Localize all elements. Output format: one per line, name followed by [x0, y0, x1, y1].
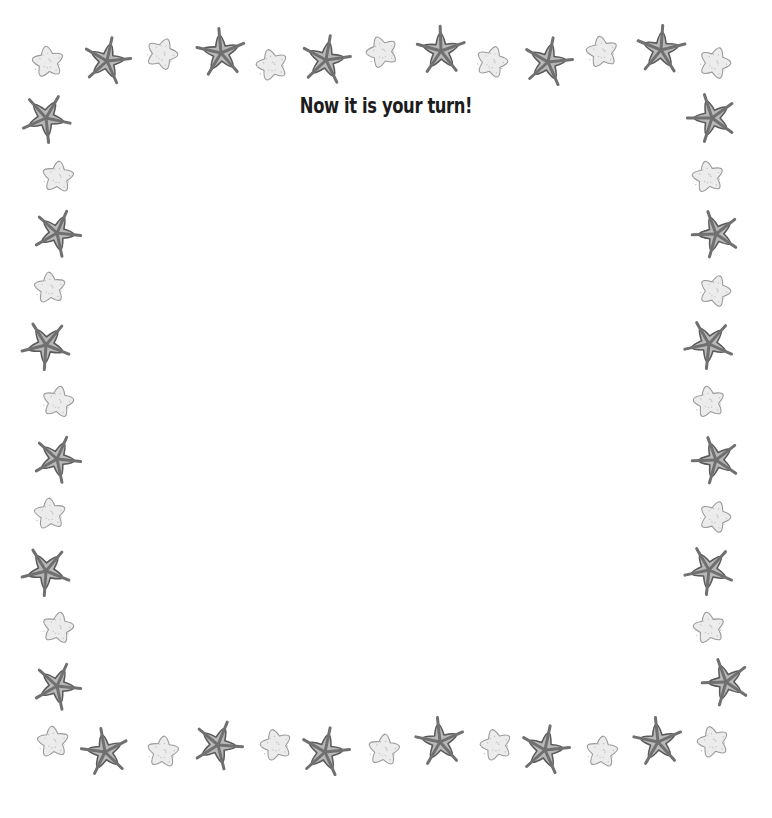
starfish-icon — [31, 601, 85, 655]
worksheet-page: Now it is your turn! — [0, 0, 772, 818]
starfish-icon — [293, 720, 357, 784]
starfish-icon — [682, 601, 736, 655]
starfish-icon — [688, 490, 742, 544]
starfish-icon — [23, 487, 77, 541]
starfish-icon — [189, 21, 253, 85]
starfish-icon — [575, 25, 629, 79]
starfish-icon — [23, 261, 77, 315]
starfish-icon — [677, 538, 741, 602]
starfish-icon — [677, 312, 741, 376]
starfish-icon — [26, 655, 88, 717]
starfish-icon — [26, 715, 80, 769]
starfish-icon — [680, 86, 744, 150]
starfish-icon — [294, 28, 358, 92]
starfish-icon — [74, 721, 136, 783]
starfish-icon — [14, 313, 78, 377]
starfish-icon — [688, 36, 742, 90]
starfish-icon — [409, 19, 473, 83]
starfish-icon — [245, 38, 299, 92]
starfish-icon — [26, 202, 88, 264]
starfish-icon — [136, 725, 190, 779]
starfish-icon — [686, 715, 740, 769]
starfish-icon — [695, 651, 757, 713]
starfish-icon — [26, 428, 88, 490]
starfish-icon — [688, 264, 742, 318]
starfish-icon — [21, 35, 75, 89]
starfish-icon — [465, 35, 519, 89]
starfish-icon — [31, 150, 85, 204]
starfish-icon — [357, 723, 411, 777]
starfish-icon — [408, 710, 472, 774]
starfish-icon — [31, 375, 85, 429]
blank-writing-area — [95, 140, 675, 710]
starfish-icon — [135, 27, 189, 81]
starfish-icon — [681, 150, 735, 204]
starfish-icon — [516, 30, 580, 94]
starfish-icon — [629, 18, 693, 82]
starfish-icon — [685, 429, 747, 491]
starfish-icon — [76, 30, 138, 92]
starfish-icon — [513, 718, 577, 782]
starfish-icon — [186, 713, 250, 777]
starfish-icon — [14, 86, 78, 150]
starfish-icon — [355, 25, 409, 79]
starfish-icon — [14, 539, 78, 603]
starfish-icon — [685, 203, 747, 265]
starfish-icon — [626, 710, 690, 774]
starfish-icon — [575, 725, 629, 779]
page-title: Now it is your turn! — [85, 94, 687, 118]
starfish-icon — [682, 375, 736, 429]
